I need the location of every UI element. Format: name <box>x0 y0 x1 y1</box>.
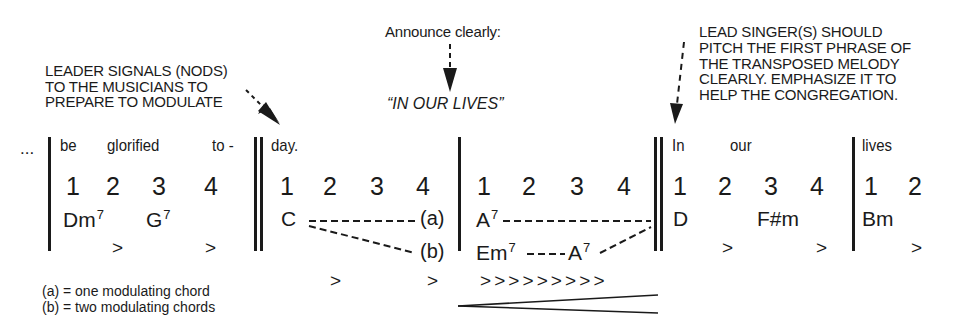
beat: 2 <box>908 172 922 201</box>
beat: 4 <box>617 172 631 201</box>
connector-a7b-to-d <box>600 227 651 253</box>
chord-a7-b: A7 <box>568 240 590 265</box>
crescendo-lower <box>458 306 658 313</box>
beat: 3 <box>570 172 584 201</box>
lyric-glorified: glorified <box>107 136 159 156</box>
legend-b: (b) = two modulating chords <box>42 299 215 315</box>
beat: 4 <box>204 172 218 201</box>
accent-mark: > <box>427 270 438 292</box>
beat: 3 <box>152 172 166 201</box>
connector-c-to-b <box>309 226 415 253</box>
double-barline-2a <box>654 137 657 251</box>
beat: 2 <box>106 172 120 201</box>
beat: 2 <box>522 172 536 201</box>
beat: 1 <box>280 172 294 201</box>
beat: 4 <box>416 172 430 201</box>
crescendo-upper <box>458 295 658 306</box>
chord-dm7: Dm7 <box>63 207 104 232</box>
barline-1 <box>48 137 51 251</box>
beat: 3 <box>764 172 778 201</box>
accent-mark: > <box>112 237 123 259</box>
accent-mark: > <box>911 237 922 259</box>
accent-mark: > <box>816 237 827 259</box>
chord-d: D <box>673 207 688 231</box>
beat: 1 <box>864 172 878 201</box>
chord-em7: Em7 <box>476 240 516 265</box>
lyric-our: our <box>730 136 752 156</box>
double-barline-2b <box>660 137 663 251</box>
beat: 1 <box>673 172 687 201</box>
announce-arrow-head-icon <box>443 68 457 92</box>
label-b: (b) <box>420 240 444 263</box>
beat: 4 <box>810 172 824 201</box>
beat: 2 <box>718 172 732 201</box>
double-barline-1a <box>254 137 257 251</box>
chord-fsharp-m: F#m <box>757 207 799 231</box>
beat: 2 <box>323 172 337 201</box>
accent-mark: > <box>722 237 733 259</box>
lyric-in: In <box>672 136 684 156</box>
accent-mark: > <box>205 237 216 259</box>
lyric-be: be <box>60 136 77 156</box>
lyric-day: day. <box>271 136 298 156</box>
beat: 1 <box>477 172 491 201</box>
double-barline-1b <box>260 137 263 251</box>
ellipsis: ... <box>20 139 34 159</box>
lyric-to: to - <box>212 136 234 156</box>
chord-a7: A7 <box>476 207 498 232</box>
legend: (a) = one modulating chord (b) = two mod… <box>42 283 215 315</box>
lead-singer-arrow-head-icon <box>670 103 683 124</box>
barline-3 <box>852 137 855 251</box>
beat: 1 <box>66 172 80 201</box>
label-a: (a) <box>420 207 444 230</box>
chord-bm: Bm <box>862 207 894 231</box>
chord-c: C <box>281 207 296 231</box>
accent-marks-series: > > > > > > > > > <box>480 270 603 292</box>
beat: 3 <box>370 172 384 201</box>
chord-g7: G7 <box>146 207 171 232</box>
lyric-lives: lives <box>862 136 892 156</box>
legend-a: (a) = one modulating chord <box>42 283 215 299</box>
accent-mark: > <box>330 270 341 292</box>
barline-2 <box>458 137 461 251</box>
lead-singer-arrow-shaft <box>677 42 684 104</box>
